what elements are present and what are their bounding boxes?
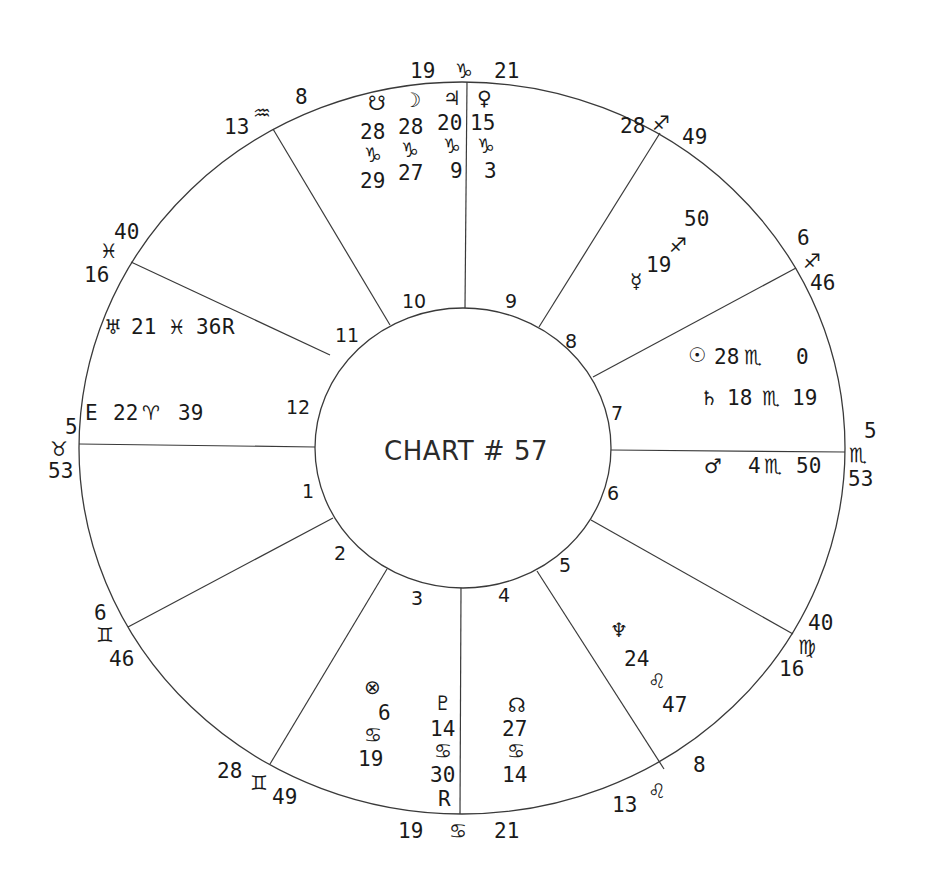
- cusp-4-minute: 21: [494, 819, 519, 843]
- north-node-minute: 14: [502, 763, 527, 787]
- mars-icon: ♂: [704, 454, 722, 478]
- planet-north-node: ☊ 27 ♋ 14: [502, 693, 527, 787]
- planet-uranus: ♅ 21 ♓ 36 R: [104, 315, 235, 339]
- cusp-4-degree: 19: [398, 819, 423, 843]
- cusp-8-minute: 46: [810, 271, 835, 295]
- cusp-line-9: [539, 133, 660, 327]
- house-number-12: 12: [286, 396, 310, 418]
- sagittarius-sign-icon: ♐: [669, 233, 687, 257]
- house-number-4: 4: [498, 584, 510, 606]
- capricorn-sign-icon: ♑: [364, 143, 382, 167]
- cusp-line-2: [128, 518, 333, 627]
- cusp-3-minute: 49: [272, 785, 297, 809]
- scorpio-sign-icon: ♏: [764, 454, 782, 478]
- aries-sign-icon: ♈: [142, 401, 160, 425]
- cancer-sign-icon: ♋: [507, 739, 525, 763]
- house-number-5: 5: [559, 554, 571, 576]
- house-number-7: 7: [611, 402, 623, 424]
- sagittarius-sign-icon: ♐: [652, 111, 670, 135]
- planet-east-point: E 22 ♈ 39: [85, 401, 203, 425]
- house-number-11: 11: [335, 324, 359, 346]
- mercury-minute: 50: [684, 207, 709, 231]
- cusp-5-degree: 13: [612, 793, 637, 817]
- capricorn-sign-icon: ♑: [401, 138, 419, 162]
- sun-icon: ☉: [688, 343, 706, 367]
- taurus-sign-icon: ♉: [50, 437, 68, 461]
- aquarius-sign-icon: ♒: [253, 101, 271, 125]
- cusp-line-4: [460, 588, 461, 814]
- cusp-line-10: [465, 82, 467, 308]
- cusp-1-minute: 53: [48, 459, 73, 483]
- capricorn-sign-icon: ♑: [443, 134, 461, 158]
- part-of-fortune-icon: ⊗: [364, 675, 381, 699]
- virgo-sign-icon: ♍: [798, 635, 816, 659]
- sagittarius-sign-icon: ♐: [803, 249, 821, 273]
- cusp-1-degree: 5: [65, 415, 78, 439]
- planet-mercury: ☿ 19 ♐ 50: [630, 207, 709, 293]
- moon-degree: 28: [398, 115, 423, 139]
- planet-jupiter: ♃ 20 ♑ 9: [437, 86, 463, 183]
- house-number-9: 9: [505, 290, 517, 312]
- mars-minute: 50: [796, 454, 821, 478]
- house-number-6: 6: [607, 482, 619, 504]
- cusp-7-degree: 5: [864, 419, 877, 443]
- neptune-minute: 47: [662, 693, 687, 717]
- jupiter-icon: ♃: [443, 86, 461, 110]
- leo-sign-icon: ♌: [648, 669, 666, 693]
- moon-minute: 27: [398, 161, 423, 185]
- planet-venus: ♀ 15 ♑ 3: [470, 86, 497, 183]
- house-number-1: 1: [302, 480, 314, 502]
- house-number-10: 10: [402, 290, 426, 312]
- cancer-sign-icon: ♋: [434, 739, 452, 763]
- cusp-8-degree: 6: [797, 226, 810, 250]
- pluto-minute: 30: [430, 763, 455, 787]
- cusp-line-1: [79, 444, 315, 447]
- house-number-2: 2: [334, 542, 346, 564]
- venus-minute: 3: [484, 159, 497, 183]
- neptune-icon: ♆: [610, 618, 628, 642]
- planet-mars: ♂ 4 ♏ 50: [704, 454, 821, 478]
- saturn-minute: 19: [792, 386, 817, 410]
- cusp-5-minute: 8: [693, 753, 706, 777]
- mars-degree: 4: [748, 454, 761, 478]
- uranus-icon: ♅: [104, 315, 122, 339]
- planet-saturn: ♄ 18 ♏ 19: [700, 386, 817, 410]
- cusp-line-7: [611, 450, 845, 452]
- planet-pluto: ♇ 14 ♋ 30 R: [430, 691, 455, 811]
- cusp-3-degree: 28: [217, 759, 242, 783]
- cusp-9-minute: 49: [682, 125, 707, 149]
- house-number-8: 8: [565, 330, 577, 352]
- house-number-3: 3: [411, 587, 423, 609]
- east-point-degree: 22: [113, 401, 138, 425]
- gemini-sign-icon: ♊: [96, 623, 114, 647]
- cusp-2-degree: 6: [94, 601, 107, 625]
- cancer-sign-icon: ♋: [364, 723, 382, 747]
- cusp-6-minute: 16: [779, 657, 804, 681]
- cusp-line-6: [591, 520, 793, 634]
- capricorn-sign-icon: ♑: [477, 134, 495, 158]
- cancer-sign-icon: ♋: [449, 819, 467, 843]
- cusp-6-degree: 40: [808, 611, 833, 635]
- natal-chart-wheel: CHART # 57 1 2 3 4 5 6 7 8 9 10 11 12 19…: [0, 0, 934, 892]
- saturn-icon: ♄: [700, 386, 718, 410]
- cusp-9-degree: 28: [620, 114, 645, 138]
- jupiter-minute: 9: [450, 159, 463, 183]
- east-point-icon: E: [85, 401, 98, 425]
- capricorn-sign-icon: ♑: [455, 59, 473, 83]
- pluto-degree: 14: [430, 717, 455, 741]
- moon-icon: ☽: [403, 88, 421, 112]
- saturn-degree: 18: [727, 386, 752, 410]
- south-node-icon: ☋: [368, 91, 386, 115]
- sun-minute: 0: [796, 345, 809, 369]
- uranus-minute: 36: [196, 315, 221, 339]
- east-point-minute: 39: [178, 401, 203, 425]
- neptune-degree: 24: [624, 647, 649, 671]
- cusp-12-minute: 16: [84, 263, 109, 287]
- scorpio-sign-icon: ♏: [849, 443, 867, 467]
- cusp-10-minute: 21: [494, 59, 519, 83]
- part-of-fortune-degree: 6: [378, 701, 391, 725]
- north-node-degree: 27: [502, 717, 527, 741]
- mercury-icon: ☿: [630, 269, 642, 293]
- pisces-sign-icon: ♓: [168, 315, 186, 339]
- south-node-degree: 28: [360, 120, 385, 144]
